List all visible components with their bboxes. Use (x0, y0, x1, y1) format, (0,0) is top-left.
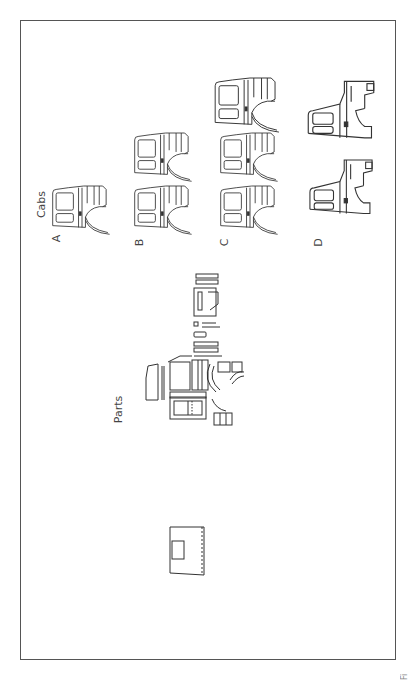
row-label-c: C (218, 239, 231, 247)
figure-caption: Fi (400, 560, 410, 680)
cab-c-3 (208, 78, 288, 134)
row-label-b: B (133, 239, 146, 247)
parts-door-panel (168, 525, 210, 577)
cab-b-2 (128, 133, 200, 183)
cab-c-1 (214, 186, 286, 236)
cab-a-1 (46, 186, 118, 236)
cab-d-1 (306, 160, 376, 220)
row-label-d: D (312, 238, 325, 246)
parts-title: Parts (112, 396, 125, 423)
parts-lower-panel (168, 395, 248, 485)
cab-b-1 (128, 186, 200, 236)
cab-d-2 (306, 80, 376, 146)
cab-c-2 (214, 133, 286, 183)
